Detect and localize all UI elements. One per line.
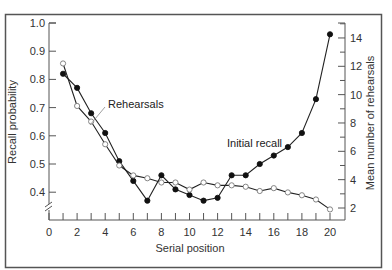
open-circle-marker [215, 183, 220, 188]
filled-circle-marker [229, 173, 234, 178]
y-tick-label: 0.5 [30, 158, 45, 170]
x-tick-label: 6 [130, 226, 136, 238]
x-tick-label: 8 [158, 226, 164, 238]
filled-circle-marker [187, 192, 192, 197]
open-circle-marker [243, 184, 248, 189]
filled-circle-marker [131, 178, 136, 183]
y-tick-label: 0.7 [30, 102, 45, 114]
open-circle-marker [60, 61, 65, 66]
rehearsals-annotation: Rehearsals [108, 98, 164, 110]
x-tick-label: 12 [211, 226, 223, 238]
filled-circle-marker [159, 173, 164, 178]
filled-circle-marker [75, 85, 80, 90]
y2-tick-label: 4 [350, 174, 356, 186]
y2-tick-label: 8 [350, 117, 356, 129]
open-circle-marker [229, 183, 234, 188]
initial-recall-annotation: Initial recall [227, 137, 282, 149]
filled-circle-marker [285, 144, 290, 149]
open-circle-marker [103, 142, 108, 147]
y-tick-label: 0.4 [30, 186, 45, 198]
y2-tick-label: 12 [350, 60, 362, 72]
filled-circle-marker [299, 130, 304, 135]
filled-circle-marker [103, 130, 108, 135]
open-circle-marker [201, 180, 206, 185]
filled-circle-marker [327, 32, 332, 37]
filled-circle-marker [173, 187, 178, 192]
y2-axis-title: Mean number of rehearsals [364, 55, 376, 190]
open-circle-marker [75, 103, 80, 108]
x-tick-label: 16 [268, 226, 280, 238]
open-circle-marker [299, 193, 304, 198]
open-circle-marker [173, 180, 178, 185]
x-tick-label: 2 [74, 226, 80, 238]
open-circle-marker [271, 186, 276, 191]
x-axis-title: Serial position [155, 242, 224, 254]
filled-circle-marker [215, 195, 220, 200]
x-tick-label: 4 [102, 226, 108, 238]
y2-tick-label: 10 [350, 89, 362, 101]
open-circle-marker [313, 197, 318, 202]
open-circle-marker [131, 173, 136, 178]
open-circle-marker [117, 163, 122, 168]
x-tick-label: 0 [46, 226, 52, 238]
serial-position-chart: 024681012141618200.40.50.60.70.80.91.024… [0, 0, 392, 270]
y-tick-label: 0.9 [30, 45, 45, 57]
y2-tick-label: 2 [350, 202, 356, 214]
x-tick-label: 18 [296, 226, 308, 238]
open-circle-marker [285, 190, 290, 195]
y-tick-label: 1.0 [30, 17, 45, 29]
y-tick-label: 0.6 [30, 130, 45, 142]
filled-circle-marker [145, 198, 150, 203]
x-tick-label: 20 [324, 226, 336, 238]
filled-circle-marker [271, 153, 276, 158]
y-tick-label: 0.8 [30, 73, 45, 85]
open-circle-marker [327, 207, 332, 212]
x-tick-label: 14 [240, 226, 252, 238]
filled-circle-marker [201, 198, 206, 203]
y2-tick-label: 14 [350, 32, 362, 44]
filled-circle-marker [257, 161, 262, 166]
filled-circle-marker [313, 97, 318, 102]
y2-tick-label: 6 [350, 145, 356, 157]
y-axis-title: Recall probability [6, 80, 18, 164]
filled-circle-marker [243, 173, 248, 178]
open-circle-marker [257, 188, 262, 193]
filled-circle-marker [89, 111, 94, 116]
open-circle-marker [145, 176, 150, 181]
open-circle-marker [159, 180, 164, 185]
open-circle-marker [187, 187, 192, 192]
filled-circle-marker [60, 71, 65, 76]
x-tick-label: 10 [183, 226, 195, 238]
